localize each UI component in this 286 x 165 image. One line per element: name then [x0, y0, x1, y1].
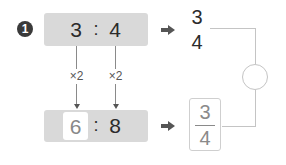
original-numerator: 3 — [191, 7, 202, 27]
original-denominator: 4 — [191, 32, 202, 52]
connector-line-vertical-bottom — [255, 90, 256, 127]
scaled-fraction-answer-box[interactable]: 3 4 — [189, 98, 221, 151]
multiplier-label-left: ×2 — [70, 69, 84, 83]
multiplier-line-left-bottom — [76, 84, 77, 105]
arrow-right-icon — [161, 25, 175, 35]
multiplier-line-right-bottom — [115, 84, 116, 105]
problem-number: 1 — [22, 23, 29, 35]
arrow-right-icon — [161, 121, 175, 131]
scaled-numerator: 3 — [199, 102, 210, 122]
multiplier-label-right: ×2 — [109, 69, 123, 83]
original-colon: : — [93, 20, 98, 38]
original-ratio-box: 3 : 4 — [44, 13, 148, 46]
multiplier-line-right-top — [115, 46, 116, 69]
connector-line-vertical-top — [255, 28, 256, 64]
comparison-answer-circle[interactable] — [242, 64, 268, 90]
scaled-colon: : — [93, 116, 98, 134]
fraction-bar — [195, 125, 215, 126]
connector-line-top — [210, 28, 255, 29]
multiplier-line-left-top — [76, 46, 77, 69]
scaled-consequent: 8 — [109, 115, 121, 136]
arrow-down-icon — [74, 104, 80, 109]
scaled-ratio-box: 6 : 8 — [44, 110, 148, 142]
original-fraction: 3 4 — [184, 8, 210, 50]
original-consequent: 4 — [109, 19, 121, 40]
problem-number-badge: 1 — [17, 21, 33, 37]
original-antecedent: 3 — [70, 19, 82, 40]
scaled-antecedent: 6 — [70, 116, 82, 137]
arrow-down-icon — [113, 104, 119, 109]
scaled-denominator: 4 — [199, 128, 210, 148]
answer-box-antecedent[interactable]: 6 — [63, 112, 88, 140]
connector-line-bottom — [222, 126, 256, 127]
